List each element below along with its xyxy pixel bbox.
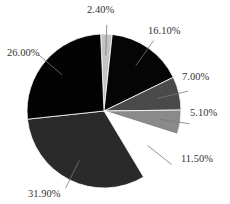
slice-label: 26.00% (7, 48, 39, 59)
slice-label: 5.10% (190, 108, 217, 119)
slice-label: 16.10% (148, 26, 180, 37)
slice-label: 7.00% (182, 72, 209, 83)
pie-chart (0, 0, 230, 204)
slice-label: 11.50% (181, 154, 213, 165)
slice-label: 31.90% (28, 189, 60, 200)
slice-label: 2.40% (87, 5, 114, 16)
